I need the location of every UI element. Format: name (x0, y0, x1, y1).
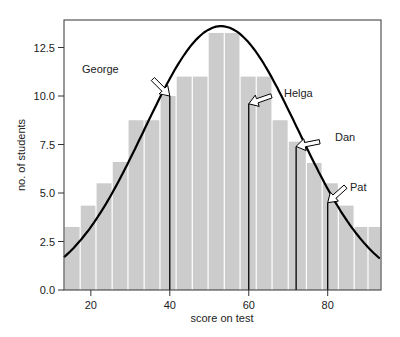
histogram-bar (225, 33, 240, 290)
y-tick-label: 7.5 (40, 139, 55, 151)
x-axis: 20406080 (85, 290, 334, 311)
y-axis: 0.02.55.07.510.012.5 (34, 42, 64, 297)
histogram-bar (355, 227, 368, 290)
histogram-bar (257, 77, 272, 290)
y-tick-label: 0.0 (40, 284, 55, 296)
x-axis-label: score on test (191, 312, 254, 324)
histogram-bar (273, 120, 288, 290)
x-tick-label: 20 (85, 299, 97, 311)
histogram-bar (289, 142, 306, 290)
histogram-bar (113, 162, 128, 290)
histogram-bar (177, 77, 192, 290)
y-tick-label: 2.5 (40, 236, 55, 248)
histogram-bar (161, 96, 176, 290)
x-tick-label: 60 (243, 299, 255, 311)
y-axis-label: no. of students (15, 118, 27, 191)
y-tick-label: 10.0 (34, 90, 55, 102)
annotation-label-helga: Helga (284, 87, 314, 99)
histogram-bar (209, 33, 224, 290)
histogram-bar (65, 227, 80, 290)
arrow-icon (151, 78, 170, 97)
histogram-bar (193, 77, 208, 290)
histogram-bar (145, 120, 160, 290)
x-tick-label: 40 (164, 299, 176, 311)
y-tick-label: 5.0 (40, 187, 55, 199)
histogram-bar (81, 206, 96, 290)
annotation-label-pat: Pat (350, 181, 367, 193)
histogram-bar (307, 163, 322, 290)
y-tick-label: 12.5 (34, 42, 55, 54)
annotation-label-george: George (82, 63, 119, 75)
x-tick-label: 80 (322, 299, 334, 311)
annotation-label-dan: Dan (335, 131, 355, 143)
histogram-chart: GeorgeHelgaDanPat 0.02.55.07.510.012.5 2… (0, 0, 400, 337)
